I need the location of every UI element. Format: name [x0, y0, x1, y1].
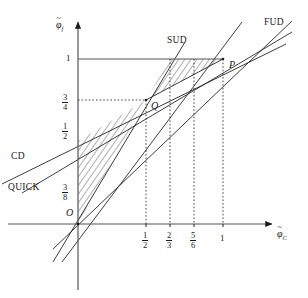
frac-denominator: 8 — [62, 192, 68, 202]
line-quick — [22, 32, 292, 193]
line-cd — [2, 44, 286, 184]
frac-denominator: 2 — [142, 240, 148, 250]
nvd-diagram-figure: ~φf ~φC 1 3 4 1 2 3 8 1 2 2 3 — [0, 0, 308, 298]
lower-hatched-triangle — [78, 100, 146, 224]
frac-denominator: 4 — [62, 102, 68, 112]
frac-numerator: 2 — [166, 231, 172, 240]
x-axis-label: ~φC — [277, 229, 287, 242]
hatched-regions — [78, 59, 223, 224]
frac-numerator: 3 — [62, 183, 68, 192]
x-axis-subscript: C — [283, 234, 287, 241]
scheme-label-quick: QUICK — [8, 183, 40, 193]
x-tick-label-half: 1 2 — [142, 231, 148, 249]
x-tick-label-five-sixths: 5 6 — [190, 231, 196, 249]
point-label-q: Q — [151, 101, 158, 111]
y-axis-label: ~φf — [56, 20, 63, 33]
frac-numerator: 1 — [62, 122, 68, 131]
line-sud — [53, 42, 185, 262]
scheme-label-sud: SUD — [167, 36, 187, 46]
plot-canvas — [0, 0, 308, 298]
scheme-lines — [2, 21, 292, 262]
point-marker-o — [77, 223, 80, 226]
frac-numerator: 5 — [190, 231, 196, 240]
frac-denominator: 2 — [62, 131, 68, 141]
point-marker-p — [222, 58, 225, 61]
frac-denominator: 3 — [166, 240, 172, 250]
x-tick-label-two-thirds: 2 3 — [166, 231, 172, 249]
x-tick-label-one: 1 — [220, 234, 225, 243]
point-label-p: P — [229, 60, 235, 70]
frac-denominator: 6 — [190, 240, 196, 250]
frac-numerator: 1 — [142, 231, 148, 240]
point-marker-q — [145, 99, 148, 102]
y-tick-label-half: 1 2 — [62, 122, 68, 140]
point-label-o: O — [66, 208, 73, 218]
frac-numerator: 3 — [62, 93, 68, 102]
scheme-label-cd: CD — [11, 152, 25, 162]
y-tick-label-three-quarters: 3 4 — [62, 93, 68, 111]
y-tick-label-1: 1 — [66, 54, 71, 63]
scheme-label-fud: FUD — [264, 18, 284, 28]
y-tick-label-three-eighths: 3 8 — [62, 183, 68, 201]
